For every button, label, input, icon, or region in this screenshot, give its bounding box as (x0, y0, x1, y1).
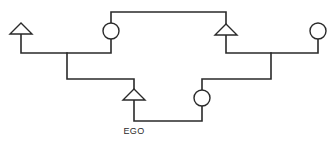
male-triangle-icon (10, 23, 32, 34)
ego-triangle-icon (123, 89, 145, 100)
maternal-marriage-line (226, 35, 318, 53)
kin-symbols (10, 23, 326, 106)
connector-lines (21, 12, 318, 121)
paternal-marriage-line (21, 34, 111, 53)
ego-label: EGO (124, 126, 145, 136)
male-triangle-icon (215, 24, 237, 35)
paternal-descent-line (67, 53, 134, 89)
ego-marriage-line (134, 100, 202, 121)
female-circle-icon (103, 23, 119, 39)
female-circle-icon (194, 90, 210, 106)
sibling-link-line (111, 12, 226, 24)
kinship-diagram: EGO (0, 0, 333, 141)
female-circle-icon (310, 23, 326, 39)
maternal-descent-line (202, 53, 271, 90)
